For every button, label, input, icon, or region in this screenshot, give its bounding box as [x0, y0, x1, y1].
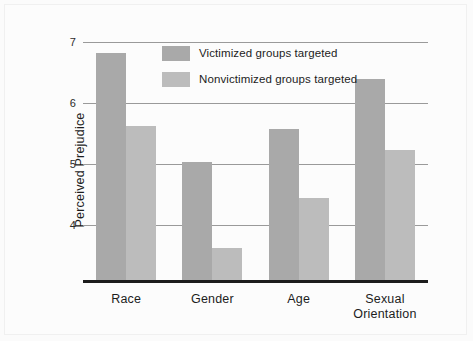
x-axis-tick-label: Gender [169, 292, 255, 307]
legend: Victimized groups targeted Nonvictimized… [162, 43, 357, 95]
legend-label: Victimized groups targeted [199, 47, 338, 59]
bar [96, 53, 126, 281]
chart-page: Perceived Prejudice 4567 RaceGenderAgeSe… [0, 0, 473, 341]
bar [385, 150, 415, 281]
chart-frame: Perceived Prejudice 4567 RaceGenderAgeSe… [4, 4, 467, 335]
y-axis-tick-label: 6 [70, 97, 76, 109]
x-axis-tick-label: Race [83, 292, 169, 307]
y-axis-tick-label: 7 [70, 36, 76, 48]
bar [182, 162, 212, 281]
bar [355, 79, 385, 281]
legend-label: Nonvictimized groups targeted [199, 73, 357, 85]
legend-item: Victimized groups targeted [162, 43, 357, 63]
y-axis-tick-label: 5 [70, 158, 76, 170]
x-axis-baseline [83, 280, 428, 283]
y-axis-tick-label: 4 [70, 219, 76, 231]
bar [299, 198, 329, 281]
legend-swatch-icon [162, 72, 190, 87]
bar [126, 126, 156, 281]
legend-item: Nonvictimized groups targeted [162, 69, 357, 89]
x-axis-tick-label: Sexual Orientation [342, 292, 428, 322]
x-axis-tick-label: Age [256, 292, 342, 307]
bar [269, 129, 299, 281]
legend-swatch-icon [162, 46, 190, 61]
bar [212, 248, 242, 281]
